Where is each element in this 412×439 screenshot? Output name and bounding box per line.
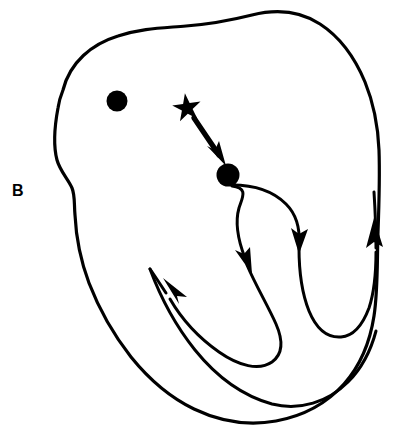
star-marker-group: [171, 91, 203, 122]
trajectory-arrowheads: [163, 218, 383, 304]
trajectory-segment-right-descent: [299, 248, 376, 337]
trajectory-segment-bottom-uturn: [170, 265, 281, 367]
region-outline-path: [55, 12, 380, 423]
trajectory-segment-left-descent: [232, 186, 245, 258]
filled-dot-upper-left: [107, 91, 128, 112]
filled-dot-center: [217, 164, 240, 187]
star-marker: [171, 91, 203, 122]
region-outline-group: [55, 12, 380, 423]
diagram-canvas: [0, 0, 412, 439]
star-to-dot-arrow-group: [194, 118, 226, 166]
figure-panel: B: [0, 0, 412, 439]
panel-label: B: [12, 183, 24, 199]
arrowhead-up-left-lower: [163, 278, 187, 304]
dot-markers-group: [107, 91, 240, 187]
